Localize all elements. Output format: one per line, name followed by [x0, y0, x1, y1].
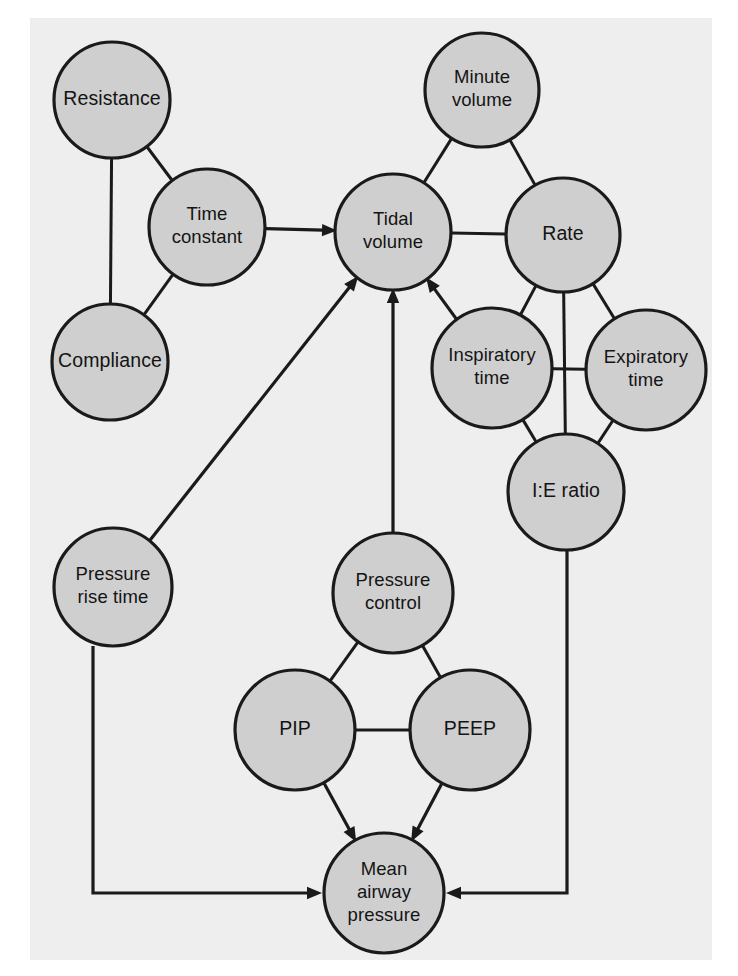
ie-ratio-label: I:E ratio	[532, 479, 600, 501]
edge-ie-ratio-mean-airway-pressure-arrowhead	[446, 887, 461, 899]
node-peep[interactable]: PEEP	[410, 670, 530, 790]
edge-inspiratory-ie-ratio	[523, 420, 536, 441]
node-compliance[interactable]: Compliance	[52, 304, 168, 420]
figure-root: ResistanceTimeconstantComplianceTidalvol…	[0, 0, 738, 976]
node-tidal-volume[interactable]: Tidalvolume	[335, 174, 451, 290]
edge-pip-mean-airway-pressure	[324, 784, 356, 843]
node-ie-ratio[interactable]: I:E ratio	[508, 434, 624, 550]
resistance-label: Resistance	[63, 87, 160, 109]
edge-rate-inspiratory-time	[521, 286, 536, 314]
nodes-layer: ResistanceTimeconstantComplianceTidalvol…	[52, 33, 706, 953]
edge-pressure-control-peep	[423, 646, 440, 677]
edge-inspiratory-time-tidal-volume-path	[434, 289, 456, 319]
node-mean-airway-pressure[interactable]: Meanairwaypressure	[324, 833, 444, 953]
compliance-label: Compliance	[58, 349, 162, 371]
edge-inspiratory-time-tidal-volume	[426, 277, 456, 318]
time-constant-label: Time	[187, 203, 228, 224]
pressure-rise-time-label: Pressure	[76, 563, 151, 584]
edge-tidal-volume-rate-path	[452, 233, 505, 234]
node-pip[interactable]: PIP	[235, 670, 355, 790]
edge-pip-mean-airway-pressure-path	[324, 784, 349, 830]
edge-minute-volume-rate-path	[510, 141, 534, 185]
edge-resistance-time-constant	[147, 147, 171, 180]
edge-pressure-control-pip-path	[330, 643, 357, 681]
edge-pressure-control-tidal-volume	[387, 288, 399, 532]
pressure-control-label: control	[365, 592, 421, 613]
edge-resistance-compliance	[110, 159, 111, 303]
pip-label: PIP	[279, 717, 311, 739]
edge-inspiratory-ie-ratio-path	[523, 420, 536, 441]
node-minute-volume[interactable]: Minutevolume	[425, 33, 539, 147]
node-time-constant[interactable]: Timeconstant	[149, 169, 265, 285]
node-resistance[interactable]: Resistance	[54, 42, 170, 158]
concept-map-diagram: ResistanceTimeconstantComplianceTidalvol…	[0, 0, 738, 976]
node-rate[interactable]: Rate	[506, 178, 620, 292]
edge-time-constant-tidal-volume	[266, 224, 337, 236]
edge-resistance-time-constant-path	[147, 147, 171, 180]
node-pressure-rise-time[interactable]: Pressurerise time	[54, 528, 172, 646]
mean-airway-pressure-label: pressure	[348, 904, 421, 925]
edge-tidal-volume-rate	[452, 233, 505, 234]
peep-label: PEEP	[444, 717, 496, 739]
tidal-volume-label: Tidal	[373, 208, 413, 229]
edge-rate-expiratory-time-path	[593, 284, 614, 318]
edge-pressure-rise-time-mean-airway-pressure-arrowhead	[307, 887, 322, 899]
edge-peep-mean-airway-pressure	[411, 784, 441, 842]
edge-pressure-rise-time-tidal-volume-path	[150, 287, 349, 540]
node-expiratory-time[interactable]: Expiratorytime	[586, 310, 706, 430]
rate-label: Rate	[542, 222, 584, 244]
time-constant-label: constant	[172, 226, 243, 247]
edge-pressure-control-peep-path	[423, 646, 440, 677]
edge-resistance-compliance-path	[110, 159, 111, 303]
edge-minute-volume-rate	[510, 141, 534, 185]
mean-airway-pressure-label: Mean	[361, 858, 408, 879]
edge-rate-ie-ratio-path	[564, 293, 566, 433]
edge-pressure-rise-time-tidal-volume	[150, 276, 358, 540]
edge-expiratory-ie-ratio	[598, 421, 612, 443]
edge-minute-volume-tidal-volume-path	[424, 139, 451, 182]
edge-rate-expiratory-time	[593, 284, 614, 318]
minute-volume-label: volume	[452, 89, 512, 110]
tidal-volume-label: volume	[363, 231, 423, 252]
edge-pressure-control-pip	[330, 643, 357, 681]
expiratory-time-label: time	[628, 369, 663, 390]
edge-rate-inspiratory-time-path	[521, 286, 536, 314]
edge-time-constant-tidal-volume-path	[266, 229, 323, 231]
edge-peep-mean-airway-pressure-path	[418, 784, 442, 829]
inspiratory-time-label: time	[474, 367, 509, 388]
node-pressure-control[interactable]: Pressurecontrol	[333, 533, 453, 653]
edge-minute-volume-tidal-volume	[424, 139, 451, 182]
edge-compliance-time-constant	[144, 275, 172, 314]
minute-volume-label: Minute	[454, 66, 510, 87]
edge-expiratory-ie-ratio-path	[598, 421, 612, 443]
mean-airway-pressure-label: airway	[357, 881, 412, 902]
expiratory-time-label: Expiratory	[604, 346, 689, 367]
edge-compliance-time-constant-path	[144, 275, 172, 314]
inspiratory-time-label: Inspiratory	[448, 344, 536, 365]
node-inspiratory-time[interactable]: Inspiratorytime	[432, 308, 552, 428]
pressure-rise-time-label: rise time	[78, 586, 149, 607]
edge-rate-ie-ratio	[564, 293, 566, 433]
pressure-control-label: Pressure	[356, 569, 431, 590]
